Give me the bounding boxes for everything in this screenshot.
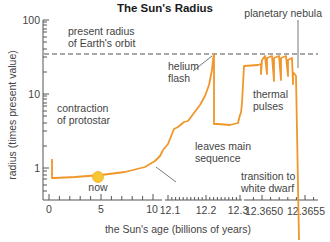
- y-tick-1: 1: [34, 162, 40, 174]
- x-tick-12-3650: 12.3650: [245, 205, 283, 217]
- helium-flash-label-line2: flash: [168, 72, 190, 84]
- white-dwarf-label-line1: transition to: [241, 170, 295, 182]
- orbit-label-line2: of Earth's orbit: [68, 37, 135, 49]
- leaves-main-seq-label-line1: leaves main: [195, 140, 251, 152]
- y-axis-label: radius (times present value): [6, 50, 18, 180]
- chart-canvas: 100 10 1 radius (times present value): [0, 0, 330, 242]
- y-tick-100: 100: [22, 14, 40, 26]
- white-dwarf-label-line2: white dwarf: [240, 182, 294, 194]
- x-axis-label: the Sun's age (billions of years): [105, 223, 251, 235]
- now-label: now: [88, 181, 108, 193]
- thermal-pulses-label-line2: pulses: [253, 100, 283, 112]
- helium-flash-label-line1: helium: [168, 60, 199, 72]
- x-tick-10: 10: [146, 203, 158, 215]
- x-axis: [43, 194, 318, 200]
- protostar-label-line2: of protostar: [57, 114, 111, 126]
- x-tick-12-3655: 12.3655: [287, 205, 325, 217]
- leaves-main-seq-label-line2: sequence: [195, 152, 241, 164]
- x-tick-0: 0: [46, 203, 52, 215]
- y-tick-10: 10: [28, 88, 40, 100]
- thermal-pulses-label-line1: thermal: [253, 88, 288, 100]
- x-tick-12-2: 12.2: [196, 204, 217, 216]
- x-tick-5: 5: [98, 203, 104, 215]
- x-tick-12-1: 12.1: [160, 204, 181, 216]
- protostar-label-line1: contraction: [57, 102, 109, 114]
- orbit-label-line1: present radius: [68, 25, 135, 37]
- planetary-nebula-label: planetary nebula: [244, 7, 322, 19]
- y-axis: [43, 20, 49, 200]
